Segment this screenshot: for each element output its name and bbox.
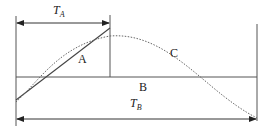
linear-ramp-a — [16, 28, 110, 100]
region-b-label: B — [139, 80, 147, 94]
ta-label: TA — [53, 3, 65, 19]
region-a-label: A — [78, 52, 87, 66]
curve-c-label: C — [170, 46, 178, 60]
diagram-canvas: TA A C B TB — [0, 0, 269, 131]
tb-label: TB — [130, 96, 142, 112]
